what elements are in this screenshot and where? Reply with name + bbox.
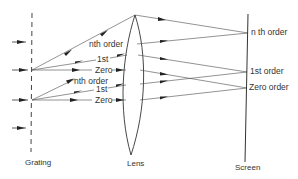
- lower-first-order-label: 1st: [96, 84, 108, 94]
- incident-arrow-icon: [12, 126, 26, 130]
- incident-arrows: [12, 40, 28, 130]
- component-captions: Grating Lens Screen: [25, 158, 260, 172]
- lens: [123, 15, 144, 155]
- incident-arrow-icon: [12, 40, 26, 44]
- ray-labels: nth order 1st Zero nth order 1st Zero: [74, 39, 123, 105]
- screen-labels: n th order 1st order Zero order: [249, 27, 289, 92]
- grating-label: Grating: [25, 158, 51, 167]
- lower-zero-order-label: Zero: [95, 95, 113, 105]
- screen-first-order-label: 1st order: [250, 66, 284, 76]
- grating: [31, 13, 32, 152]
- upper-nth-order-label: nth order: [89, 39, 123, 49]
- upper-first-order-label: 1st: [97, 54, 109, 64]
- screen-label: Screen: [235, 163, 260, 172]
- lens-label: Lens: [127, 159, 144, 168]
- screen-zero-order-label: Zero order: [249, 82, 289, 92]
- focused-rays: [135, 15, 248, 100]
- incident-arrow-icon: [12, 68, 28, 72]
- upper-zero-order-label: Zero: [95, 65, 113, 75]
- diffraction-grating-diagram: nth order 1st Zero nth order 1st Zero n …: [0, 0, 298, 179]
- incident-arrow-icon: [12, 98, 28, 102]
- screen-nth-order-label: n th order: [251, 27, 288, 37]
